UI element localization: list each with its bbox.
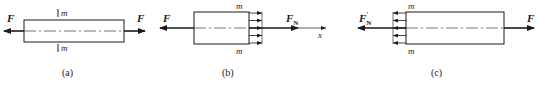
section-label-bottom: m bbox=[61, 43, 68, 53]
section-label-top: m bbox=[61, 8, 68, 18]
caption-b: (b) bbox=[222, 67, 234, 79]
internal-force-label: FN bbox=[285, 12, 298, 27]
panel-a: F F m m (a) bbox=[4, 8, 145, 79]
force-label-left: F bbox=[6, 12, 15, 24]
force-label-left: F bbox=[162, 12, 171, 24]
section-label-bottom: m bbox=[408, 46, 415, 56]
panel-c: F'N F m m (c) bbox=[358, 1, 535, 79]
caption-a: (a) bbox=[62, 67, 73, 79]
internal-force-label: F'N bbox=[358, 10, 371, 27]
force-label-right: F bbox=[526, 12, 535, 24]
axis-label-x: x bbox=[317, 30, 322, 40]
caption-c: (c) bbox=[431, 67, 442, 79]
section-label-top: m bbox=[408, 1, 415, 11]
section-label-top: m bbox=[236, 1, 243, 11]
axial-force-diagram: F F m m (a) x F FN m m (b) bbox=[0, 0, 538, 88]
panel-b: x F FN m m (b) bbox=[160, 1, 326, 79]
section-label-bottom: m bbox=[236, 46, 243, 56]
force-label-right: F bbox=[136, 12, 145, 24]
